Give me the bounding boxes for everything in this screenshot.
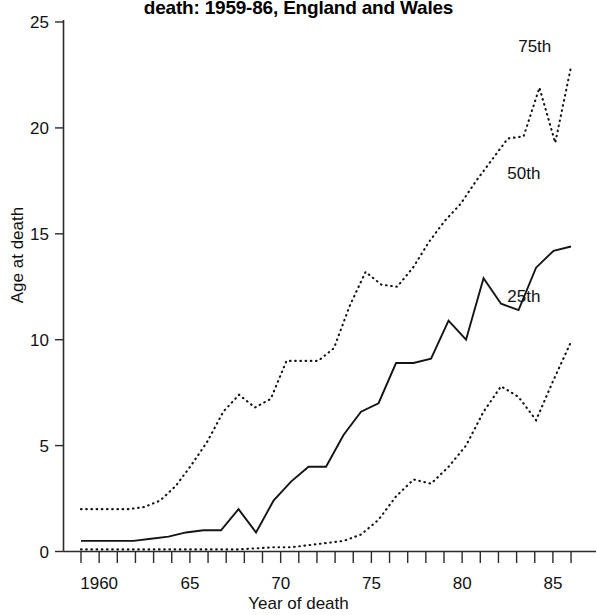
x-tick-label: 1960 [80,574,118,593]
series-curve-75th [81,66,571,509]
series-curve-50th [81,247,571,541]
y-tick-label: 25 [30,13,49,32]
x-tick-label: 75 [362,574,381,593]
series-curves [81,66,571,549]
series-annotations: 75th50th25th [507,37,551,306]
y-tick-label: 0 [40,543,49,562]
y-tick-label: 5 [40,437,49,456]
series-annotation-25th: 25th [507,287,540,306]
x-tick-label: 85 [543,574,562,593]
plot-area: 0510152025 19606570758085 75th50th25th [0,0,597,615]
series-annotation-75th: 75th [518,37,551,56]
x-axis-ticks: 19606570758085 [80,552,571,594]
series-curve-25th [81,342,571,550]
chart-container: death: 1959-86, England and Wales Age at… [0,0,597,615]
y-tick-label: 10 [30,331,49,350]
y-tick-label: 15 [30,225,49,244]
y-axis-ticks: 0510152025 [30,13,63,562]
x-tick-label: 80 [453,574,472,593]
x-tick-label: 70 [271,574,290,593]
x-tick-label: 65 [180,574,199,593]
y-tick-label: 20 [30,119,49,138]
series-annotation-50th: 50th [507,164,540,183]
